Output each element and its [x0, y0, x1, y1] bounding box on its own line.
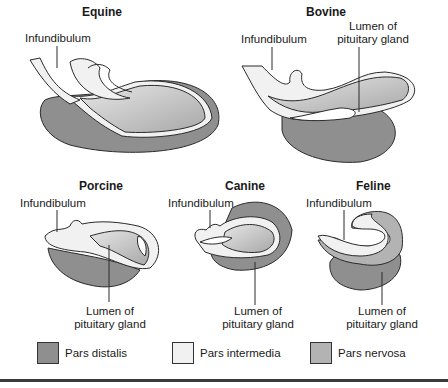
label-lumen-porcine: Lumen of pituitary gland — [62, 305, 158, 331]
equine-pituitary — [30, 58, 219, 152]
panel-title-porcine: Porcine — [79, 179, 123, 193]
bottom-rule — [0, 379, 448, 382]
swatch-pars-intermedia — [172, 342, 194, 364]
bovine-pituitary — [242, 66, 415, 162]
label-infundibulum-canine: Infundibulum — [168, 197, 234, 210]
label-lumen-canine: Lumen of pituitary gland — [210, 305, 306, 331]
swatch-pars-nervosa — [310, 342, 332, 364]
label-infundibulum-feline: Infundibulum — [306, 197, 372, 210]
swatch-pars-distalis — [37, 342, 59, 364]
label-lumen-feline: Lumen of pituitary gland — [334, 305, 430, 331]
label-infundibulum-bovine: Infundibulum — [241, 33, 307, 46]
label-infundibulum-porcine: Infundibulum — [20, 197, 86, 210]
panel-title-canine: Canine — [225, 179, 265, 193]
label-infundibulum-equine: Infundibulum — [25, 32, 91, 45]
label-lumen-bovine: Lumen of pituitary gland — [318, 20, 428, 46]
porcine-pituitary — [45, 220, 159, 286]
canine-pituitary — [195, 202, 292, 270]
feline-pituitary — [318, 211, 403, 290]
panel-title-feline: Feline — [356, 179, 391, 193]
legend-item-pars-distalis: Pars distalis — [37, 342, 127, 364]
legend-item-pars-nervosa: Pars nervosa — [310, 342, 406, 364]
legend-item-pars-intermedia: Pars intermedia — [172, 342, 281, 364]
panel-title-equine: Equine — [82, 5, 122, 19]
panel-title-bovine: Bovine — [306, 5, 346, 19]
